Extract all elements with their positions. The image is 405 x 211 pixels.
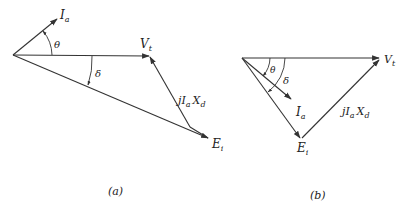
terminal-voltage-phasor-a: [13, 55, 149, 56]
panel-b: θ δ Vt Ia jIaXd Ei (b): [242, 53, 396, 202]
theta-label-a: θ: [54, 39, 60, 50]
delta-arc-a: [88, 56, 92, 85]
terminal-voltage-label-a: Vt: [140, 37, 153, 53]
reactance-drop-label-a: jIaXd: [175, 94, 206, 109]
current-label-b: Ia: [295, 105, 306, 121]
delta-label-a: δ: [95, 68, 101, 79]
caption-b: (b): [310, 189, 326, 202]
panel-a: Ia θ Vt δ jIaXd Ei (a): [13, 8, 224, 198]
terminal-voltage-label-b: Vt: [384, 53, 396, 68]
reactance-drop-label-b: jIaXd: [339, 105, 370, 120]
theta-label-b: θ: [270, 65, 276, 75]
reactance-drop-tail-a: [190, 127, 208, 138]
reactance-drop-phasor-b: [302, 60, 379, 138]
reactance-drop-phasor-a: [150, 57, 190, 127]
delta-label-b: δ: [283, 75, 289, 86]
internal-emf-label-b: Ei: [296, 141, 309, 157]
theta-arc-b: [263, 58, 270, 76]
current-phasor-a: [13, 19, 57, 55]
current-label-a: Ia: [59, 8, 70, 24]
phasor-diagram: Ia θ Vt δ jIaXd Ei (a) θ δ Vt Ia jIaXd E…: [0, 0, 405, 211]
internal-emf-label-a: Ei: [211, 137, 224, 153]
caption-a: (a): [108, 185, 123, 198]
theta-arc-a: [43, 31, 52, 55]
